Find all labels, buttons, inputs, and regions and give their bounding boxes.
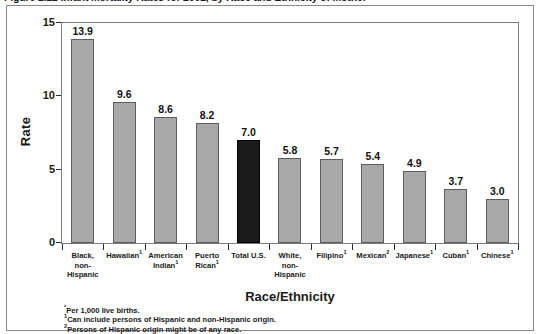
x-axis-tick-mark — [103, 244, 104, 250]
x-axis-tick-marks — [62, 244, 518, 250]
bar-group[interactable]: 4.9 — [394, 23, 435, 243]
x-axis-tick-mark — [228, 244, 229, 250]
bar[interactable] — [196, 123, 219, 243]
bar-group[interactable]: 3.7 — [435, 23, 476, 243]
footnote-text: Can include persons of Hispanic and non-… — [67, 315, 276, 324]
x-axis-tick-label: Black,non-Hispanic — [62, 251, 103, 280]
x-axis-tick-mark — [352, 244, 353, 250]
bar-value-label: 3.0 — [477, 185, 518, 197]
bar-group[interactable]: 5.8 — [269, 23, 310, 243]
bar-value-label: 5.4 — [352, 150, 393, 162]
footnote: *Per 1,000 live births. — [64, 306, 504, 315]
bar-value-label: 7.0 — [228, 126, 269, 138]
bar[interactable] — [361, 164, 384, 243]
bar-group[interactable]: 8.2 — [186, 23, 227, 243]
x-axis-tick-mark — [477, 244, 478, 250]
bar-group[interactable]: 9.6 — [103, 23, 144, 243]
bar-value-label: 4.9 — [394, 157, 435, 169]
x-axis-tick-label: Hawaiian1 — [103, 251, 144, 280]
x-axis-tick-mark — [269, 244, 270, 250]
footnote: 2Persons of Hispanic origin might be of … — [64, 325, 504, 334]
footnotes: *Per 1,000 live births.1Can include pers… — [64, 306, 504, 334]
bar[interactable] — [113, 102, 136, 243]
bar-value-label: 5.7 — [311, 145, 352, 157]
bar-group[interactable]: 5.7 — [311, 23, 352, 243]
x-axis-tick-mark — [145, 244, 146, 250]
bar[interactable] — [320, 159, 343, 243]
bar-group[interactable]: 5.4 — [352, 23, 393, 243]
bar[interactable] — [403, 171, 426, 243]
x-axis-tick-label: PuertoRican1 — [186, 251, 227, 280]
y-axis-tick-label: 0 — [29, 236, 55, 248]
x-axis-tick-mark — [311, 244, 312, 250]
x-axis-tick-label: Chinese1 — [477, 251, 518, 280]
x-axis-tick-mark — [62, 244, 63, 250]
x-axis-tick-label: AmericanIndian1 — [145, 251, 186, 280]
bar-chart: Rate 051015 13.99.68.68.27.05.85.75.44.9… — [7, 6, 535, 332]
bar[interactable] — [154, 117, 177, 243]
bar-value-label: 8.6 — [145, 103, 186, 115]
bar[interactable] — [444, 189, 467, 243]
bar[interactable] — [237, 140, 260, 243]
x-axis-tick-mark — [394, 244, 395, 250]
y-axis-tick-labels: 051015 — [29, 22, 55, 244]
y-axis-tick-label: 5 — [29, 163, 55, 175]
bar-group[interactable]: 7.0 — [228, 23, 269, 243]
bar-group[interactable]: 3.0 — [477, 23, 518, 243]
bar-value-label: 13.9 — [62, 25, 103, 37]
y-axis-tick-label: 15 — [29, 16, 55, 28]
x-axis-tick-label: Total U.S. — [228, 251, 269, 280]
x-axis-tick-label: Japanese1 — [394, 251, 435, 280]
bar-value-label: 3.7 — [435, 175, 476, 187]
bar[interactable] — [278, 158, 301, 243]
footnote-text: Persons of Hispanic origin might be of a… — [67, 325, 241, 334]
footnote-text: Per 1,000 live births. — [66, 306, 139, 315]
bar-group[interactable]: 13.9 — [62, 23, 103, 243]
x-axis-tick-labels: Black,non-HispanicHawaiian1AmericanIndia… — [62, 251, 518, 280]
bar-value-label: 9.6 — [103, 88, 144, 100]
x-axis-tick-label: Mexican2 — [352, 251, 393, 280]
figure-frame: Rate 051015 13.99.68.68.27.05.85.75.44.9… — [6, 5, 534, 331]
bars-container: 13.99.68.68.27.05.85.75.44.93.73.0 — [62, 23, 518, 243]
x-axis-tick-mark — [186, 244, 187, 250]
x-axis-tick-mark — [435, 244, 436, 250]
x-axis-tick-mark — [518, 244, 519, 250]
x-axis-tick-label: Filipino1 — [311, 251, 352, 280]
y-axis-tick-label: 10 — [29, 89, 55, 101]
bar-value-label: 5.8 — [269, 144, 310, 156]
x-axis-tick-label: White,non-Hispanic — [269, 251, 310, 280]
bar[interactable] — [71, 39, 94, 243]
bar-value-label: 8.2 — [186, 109, 227, 121]
x-axis-tick-label: Cuban1 — [435, 251, 476, 280]
x-axis-title: Race/Ethnicity — [61, 289, 519, 304]
bar[interactable] — [486, 199, 509, 243]
bar-group[interactable]: 8.6 — [145, 23, 186, 243]
footnote: 1Can include persons of Hispanic and non… — [64, 315, 504, 324]
figure-caption: Figure 2.22 Infant Mortality Rates for 2… — [4, 0, 538, 3]
